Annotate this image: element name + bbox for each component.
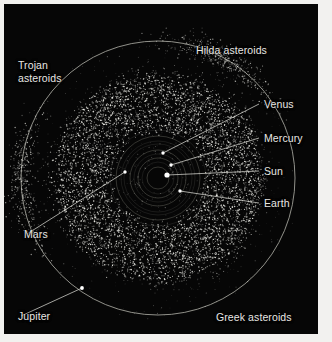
asteroid-map-plot: Hilda asteroids Trojan asteroids Greek a… — [4, 4, 318, 334]
figure-root: Hilda asteroids Trojan asteroids Greek a… — [0, 0, 332, 342]
asteroid-scatter-canvas — [4, 4, 318, 334]
